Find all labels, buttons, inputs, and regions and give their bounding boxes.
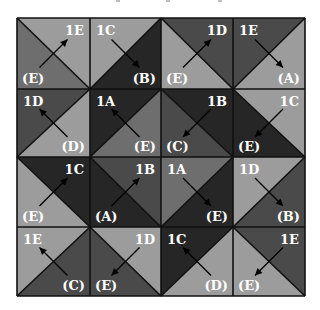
tile: 1E(A) xyxy=(233,18,305,89)
tile-bottom-label: (E) xyxy=(238,278,260,293)
tile-bottom-label: (A) xyxy=(95,209,117,224)
tile: 1D(E) xyxy=(161,18,233,89)
tile: 1D(E) xyxy=(90,227,161,296)
tile-bottom-label: (B) xyxy=(277,209,300,224)
tile-top-label: 1B xyxy=(135,162,155,177)
tile-top-label: 1D xyxy=(135,232,155,247)
tile-top-label: 1D xyxy=(239,162,259,177)
tile-top-label: 1C xyxy=(167,232,186,247)
quilt-grid-diagram: 1E(E)1C(B)1D(E)1E(A)1D(D)1A(E)1B(C)1C(E)… xyxy=(0,0,320,310)
tile-top-label: 1E xyxy=(23,232,42,247)
tile: 1C(E) xyxy=(17,157,90,227)
tile: 1D(D) xyxy=(17,89,90,157)
tile-bottom-label: (E) xyxy=(22,209,44,224)
tile-top-label: 1C xyxy=(65,162,84,177)
tile: 1D(B) xyxy=(233,157,305,227)
tile-top-label: 1C xyxy=(96,23,115,38)
tile-bottom-label: (E) xyxy=(22,71,44,86)
tile-bottom-label: (C) xyxy=(166,139,189,154)
tile-top-label: 1E xyxy=(239,23,258,38)
tile-top-label: 1A xyxy=(167,162,187,177)
tile-bottom-label: (E) xyxy=(134,139,156,154)
tile-bottom-label: (E) xyxy=(95,278,117,293)
tile-bottom-label: (E) xyxy=(166,71,188,86)
tile-top-label: 1E xyxy=(280,232,299,247)
tile-bottom-label: (C) xyxy=(62,278,85,293)
tile-bottom-label: (E) xyxy=(238,139,260,154)
tile: 1A(E) xyxy=(90,89,161,157)
tile: 1B(C) xyxy=(161,89,233,157)
tile-top-label: 1E xyxy=(65,23,84,38)
tile: 1A(E) xyxy=(161,157,233,227)
tile-top-label: 1B xyxy=(207,94,227,109)
tile: 1E(E) xyxy=(17,18,90,89)
tile: 1B(A) xyxy=(90,157,161,227)
tile: 1E(C) xyxy=(17,227,90,296)
tile-bottom-label: (B) xyxy=(133,71,156,86)
tile-bottom-label: (D) xyxy=(204,278,228,293)
tile: 1E(E) xyxy=(233,227,305,296)
tile-top-label: 1C xyxy=(280,94,299,109)
tile-bottom-label: (D) xyxy=(61,139,85,154)
tile: 1C(B) xyxy=(90,18,161,89)
tile-bottom-label: (A) xyxy=(278,71,300,86)
tile-bottom-label: (E) xyxy=(206,209,228,224)
tile: 1C(E) xyxy=(233,89,305,157)
tile-top-label: 1D xyxy=(207,23,227,38)
tile: 1C(D) xyxy=(161,227,233,296)
tile-top-label: 1A xyxy=(96,94,116,109)
tile-top-label: 1D xyxy=(23,94,43,109)
